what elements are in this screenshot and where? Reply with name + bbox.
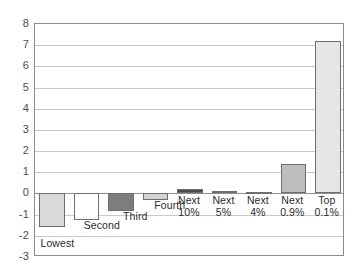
y-axis-tick-label: 0: [23, 186, 29, 198]
y-axis-tick-label: 1: [23, 165, 29, 177]
bar: [246, 192, 271, 194]
category-label: Next 5%: [206, 195, 240, 218]
bar: [74, 193, 99, 219]
category-label: Top 0.1%: [310, 195, 344, 218]
bar: [212, 191, 237, 194]
y-axis-tick-label: 6: [23, 59, 29, 71]
y-axis-tick-label: 7: [23, 38, 29, 50]
bar: [177, 189, 202, 193]
y-axis-tick-label: 2: [23, 144, 29, 156]
y-axis-tick-label: 3: [23, 123, 29, 135]
category-label: Second: [84, 220, 118, 232]
category-label: Next 0.9%: [275, 195, 309, 218]
y-axis-tick-label: -3: [19, 250, 29, 262]
y-axis-tick-label: 5: [23, 81, 29, 93]
bar: [281, 164, 306, 194]
category-label: Next 4%: [241, 195, 275, 218]
y-axis-tick-label: 8: [23, 17, 29, 29]
y-axis: 876543210-1-2-3: [0, 0, 34, 279]
category-label: Lowest: [40, 238, 95, 250]
bar: [108, 193, 133, 211]
bar: [315, 41, 340, 194]
y-axis-tick-label: -1: [19, 208, 29, 220]
bar: [39, 193, 64, 227]
category-label: Third: [118, 211, 152, 223]
plot-area: [34, 23, 344, 256]
y-axis-tick-label: 4: [23, 102, 29, 114]
bar-chart: 876543210-1-2-3 LowestSecondThirdFourthN…: [0, 0, 356, 279]
bar-series: [35, 24, 343, 255]
y-axis-tick-label: -2: [19, 229, 29, 241]
category-label: Next 10%: [172, 195, 206, 218]
